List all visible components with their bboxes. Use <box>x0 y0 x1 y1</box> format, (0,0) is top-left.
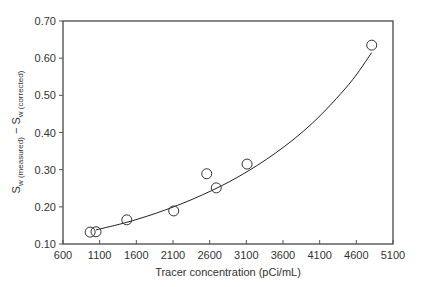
x-tick-label: 4100 <box>307 249 331 261</box>
plot-border <box>63 21 393 244</box>
y-tick-label: 0.10 <box>35 238 56 250</box>
y-axis-ticks: 0.100.200.300.400.500.600.70 <box>35 15 63 250</box>
x-tick-label: 2100 <box>161 249 185 261</box>
x-tick-label: 3100 <box>234 249 258 261</box>
x-tick-label: 5100 <box>381 249 405 261</box>
plot-frame <box>63 21 393 244</box>
data-point <box>367 40 377 50</box>
data-point <box>169 206 179 216</box>
x-tick-label: 4600 <box>344 249 368 261</box>
x-tick-label: 600 <box>54 249 72 261</box>
x-axis-label: Tracer concentration (pCi/mL) <box>155 266 301 278</box>
y-tick-label: 0.40 <box>35 127 56 139</box>
y-label-sub1: w (measured) <box>16 137 25 187</box>
chart: 600110016002100260031003600410046005100 … <box>0 0 422 287</box>
x-tick-label: 1100 <box>88 249 112 261</box>
data-point <box>91 227 101 237</box>
fit-curve <box>96 53 372 230</box>
y-label-sub2: w (corrected) <box>16 70 25 118</box>
x-tick-label: 1600 <box>124 249 148 261</box>
y-tick-label: 0.50 <box>35 89 56 101</box>
y-label-main: S <box>10 186 22 193</box>
fit-line-path <box>96 53 372 230</box>
y-tick-label: 0.20 <box>35 201 56 213</box>
y-tick-label: 0.70 <box>35 15 56 27</box>
data-points <box>85 40 377 237</box>
x-tick-label: 3600 <box>271 249 295 261</box>
x-tick-label: 2600 <box>197 249 221 261</box>
y-tick-label: 0.60 <box>35 52 56 64</box>
y-axis-label: Sw (measured) − Sw (corrected) <box>10 70 25 193</box>
data-point <box>122 215 132 225</box>
data-point <box>202 169 212 179</box>
y-label-mid: − S <box>10 117 22 137</box>
y-tick-label: 0.30 <box>35 164 56 176</box>
x-axis-ticks: 600110016002100260031003600410046005100 <box>54 240 405 261</box>
data-point <box>242 159 252 169</box>
